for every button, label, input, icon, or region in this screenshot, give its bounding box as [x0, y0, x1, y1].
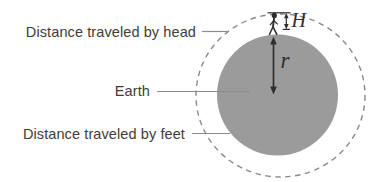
height-variable-label: H	[291, 9, 308, 31]
figure-canvas: Distance traveled by head Earth Distance…	[0, 0, 372, 182]
height-measure-arrow	[283, 13, 290, 30]
label-earth: Earth	[115, 83, 150, 99]
radius-variable-label: r	[281, 48, 291, 73]
label-distance-feet: Distance traveled by feet	[23, 126, 185, 142]
label-distance-head: Distance traveled by head	[26, 24, 196, 40]
earth-head-feet-diagram: Distance traveled by head Earth Distance…	[0, 0, 372, 182]
walking-person-icon	[269, 13, 278, 35]
earth-circle	[217, 35, 338, 156]
